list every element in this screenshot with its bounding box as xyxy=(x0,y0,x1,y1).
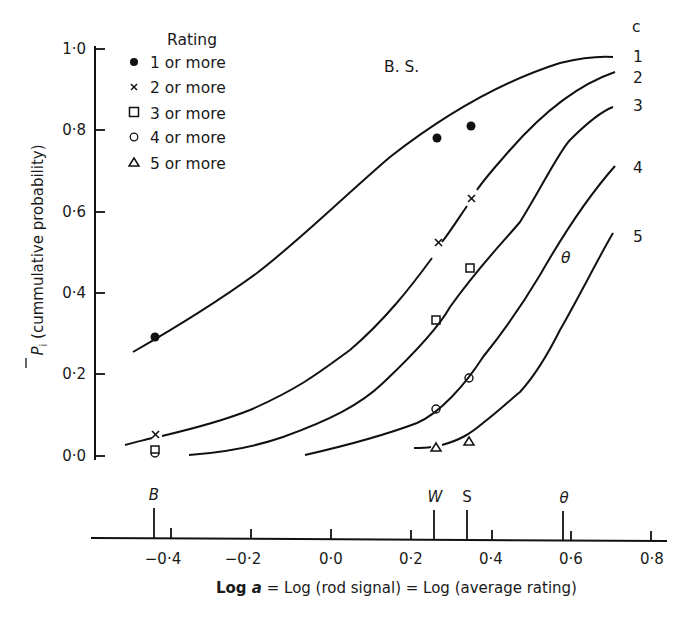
y-tick-label: 0·4 xyxy=(62,284,86,302)
data-point-cross xyxy=(435,239,442,246)
data-point-filled-circle xyxy=(467,122,476,131)
x-tick-label: 0·4 xyxy=(479,550,503,568)
y-axis-title: Pi (cummulative probability) xyxy=(26,144,49,368)
curve-label-2: 2 xyxy=(633,69,643,87)
x-axis-title: Log a = Log (rod signal) = Log (average … xyxy=(216,579,577,597)
legend-cross-icon xyxy=(131,84,137,90)
curve-4 xyxy=(305,166,615,455)
chart-title: B. S. xyxy=(384,58,419,76)
x-axis-title-log: Log xyxy=(216,579,252,597)
series-5-markers xyxy=(431,437,474,451)
legend-open-circle-icon xyxy=(130,133,138,141)
data-point-triangle xyxy=(464,437,474,445)
curve-label-1: 1 xyxy=(633,48,643,66)
x-axis: −0·4 −0·2 0·0 0·2 0·4 0·6 0·8 xyxy=(91,528,667,568)
ref-marker-S: S xyxy=(462,488,472,506)
svg-text:Pi (cummulative probability): Pi (cummulative probability) xyxy=(29,144,49,355)
y-tick-label: 1·0 xyxy=(62,40,86,58)
data-point-cross xyxy=(152,431,159,438)
y-axis: 1·0 0·8 0·6 0·4 0·2 0·0 xyxy=(62,40,105,465)
reference-markers: B W S θ xyxy=(149,486,569,541)
legend-filled-circle-icon xyxy=(130,58,138,66)
legend-square-icon xyxy=(130,108,139,117)
curve-1 xyxy=(133,57,613,352)
y-axis-title-rest: (cummulative probability) xyxy=(29,144,47,343)
data-point-filled-circle xyxy=(151,333,160,342)
data-point-filled-circle xyxy=(433,134,442,143)
x-tick-label: 0·0 xyxy=(319,550,343,568)
legend: Rating 1 or more 2 or more 3 or more 4 o… xyxy=(129,31,226,173)
x-tick-label: 0·6 xyxy=(559,550,583,568)
legend-label-4: 4 or more xyxy=(150,129,226,147)
data-point-cross xyxy=(468,195,475,202)
data-point-square xyxy=(466,264,474,272)
curve-2 xyxy=(125,72,615,445)
legend-label-2: 2 or more xyxy=(150,79,226,97)
legend-label-3: 3 or more xyxy=(150,105,226,123)
x-tick-label: −0·2 xyxy=(225,550,261,568)
y-tick-label: 0·8 xyxy=(62,121,86,139)
ref-marker-B: B xyxy=(149,486,159,504)
theta-annotation: θ xyxy=(561,249,571,267)
x-tick-label: 0·8 xyxy=(640,550,664,568)
y-tick-label: 0·0 xyxy=(62,447,86,465)
x-tick-label: 0·2 xyxy=(399,550,423,568)
curve-3 xyxy=(189,107,613,455)
legend-triangle-icon xyxy=(129,158,139,166)
series-4-markers xyxy=(151,374,473,457)
y-tick-label: 0·6 xyxy=(62,203,86,221)
curve-label-3: 3 xyxy=(633,97,643,115)
chart-figure: 1·0 0·8 0·6 0·4 0·2 0·0 Pi (cummulative … xyxy=(0,0,688,632)
x-axis-title-a: a xyxy=(252,579,262,597)
curve-label-4: 4 xyxy=(633,159,643,177)
series-2-markers xyxy=(152,195,475,438)
data-point-triangle xyxy=(431,443,441,451)
ref-marker-theta: θ xyxy=(559,489,568,507)
data-point-square xyxy=(151,446,159,453)
curve-label-5: 5 xyxy=(633,228,643,246)
y-tick-label: 0·2 xyxy=(62,365,86,383)
ref-marker-W: W xyxy=(428,488,444,506)
x-tick-label: −0·4 xyxy=(145,550,181,568)
legend-title: Rating xyxy=(167,31,217,49)
curve-group-label: c xyxy=(632,18,641,36)
legend-label-5: 5 or more xyxy=(150,155,226,173)
curve-5 xyxy=(414,233,613,448)
legend-label-1: 1 or more xyxy=(150,54,226,72)
x-axis-title-rest: = Log (rod signal) = Log (average rating… xyxy=(262,579,577,597)
